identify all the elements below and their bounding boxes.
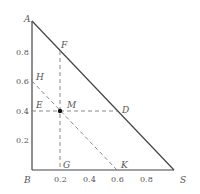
label-E: E: [35, 100, 43, 110]
label-A: A: [23, 14, 31, 24]
label-D: D: [121, 105, 129, 115]
ternary-diagram: A B S F H E M D G K 0.8 0.6 0.4 0.2 0.2 …: [0, 0, 200, 194]
label-H: H: [35, 72, 44, 82]
x-tick-0.6: 0.6: [111, 175, 124, 184]
dashed-HK: [32, 81, 117, 170]
y-tick-0.6: 0.6: [16, 77, 29, 86]
side-AS: [32, 21, 174, 170]
x-tick-0.2: 0.2: [54, 175, 67, 184]
label-G: G: [63, 160, 70, 170]
label-B: B: [23, 175, 31, 185]
x-tick-0.4: 0.4: [83, 175, 96, 184]
label-F: F: [60, 40, 68, 50]
x-tick-0.8: 0.8: [140, 175, 153, 184]
y-tick-0.8: 0.8: [16, 48, 29, 57]
label-S: S: [180, 175, 186, 185]
y-tick-0.4: 0.4: [16, 107, 29, 116]
label-M: M: [66, 100, 77, 110]
point-M: [58, 109, 62, 113]
y-tick-0.2: 0.2: [16, 136, 29, 145]
label-K: K: [120, 160, 129, 170]
